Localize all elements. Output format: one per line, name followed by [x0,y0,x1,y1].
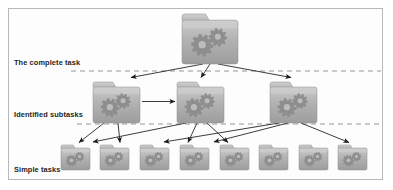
simple-task-folder-5[interactable] [220,145,249,170]
simple-task-folder-3[interactable] [140,145,169,170]
subtask-folder-1[interactable] [93,82,140,123]
folder-highlight [271,88,317,94]
subtask-folder-3[interactable] [270,82,317,123]
diagram-graphics [0,0,393,190]
folder-nodes [61,14,367,170]
folder-highlight [183,21,238,29]
folder-highlight [221,149,249,153]
folder-highlight [300,149,328,153]
simple-task-folder-4[interactable] [180,145,209,170]
folder-highlight [101,149,129,153]
edge-subtask-2-to-simple-2 [93,123,186,142]
folder-highlight [178,88,224,94]
edge-subtask-3-to-simple-4 [164,123,279,142]
simple-task-folder-8[interactable] [338,145,367,170]
folder-highlight [181,149,209,153]
edge-subtask-1-to-simple-3 [118,123,120,143]
folder-highlight [339,149,367,153]
simple-task-folder-7[interactable] [299,145,328,170]
subtask-folder-2[interactable] [177,82,224,123]
tier-label-identified-subtasks: Identified subtasks [14,110,83,119]
simple-task-folder-2[interactable] [100,145,129,170]
edge-subtask-1-to-simple-1 [79,123,104,143]
tier-label-complete-task: The complete task [14,58,80,67]
complete-task-folder[interactable] [182,14,238,64]
folder-highlight [94,88,140,94]
edge-subtask-2-to-simple-4 [188,123,197,143]
edge-subtask-3-to-simple-5 [214,123,288,142]
tier-label-simple-tasks: Simple tasks [14,165,60,174]
folder-highlight [260,149,288,153]
edge-subtask-3-to-simple-8 [301,123,349,143]
simple-task-folder-1[interactable] [61,145,90,170]
simple-task-folder-6[interactable] [259,145,288,170]
folder-highlight [141,149,169,153]
folder-highlight [62,149,90,153]
diagram-canvas: The complete task Identified subtasks Si… [0,0,393,190]
